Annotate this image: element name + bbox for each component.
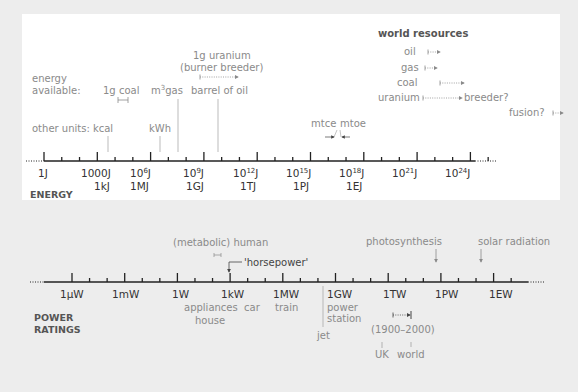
power-station-line1: power bbox=[327, 302, 359, 313]
energy-axis bbox=[26, 152, 496, 161]
power-label-tw: 1TW bbox=[383, 288, 407, 300]
energy-available-line1: energy bbox=[32, 73, 67, 84]
energy-label-1j: 1J bbox=[38, 167, 48, 179]
power-label-w: 1W bbox=[172, 288, 190, 300]
power-label-uw: 1µW bbox=[60, 288, 84, 300]
energy-label-10e9j: 109J bbox=[183, 167, 204, 179]
uranium-line1: 1g uranium bbox=[193, 50, 251, 61]
jet-label: jet bbox=[316, 330, 330, 341]
energy-label-1000j: 1000J bbox=[81, 167, 111, 179]
energy-label-10e24j: 1024J bbox=[445, 167, 470, 179]
gas-label: m3gas bbox=[151, 84, 183, 96]
energy-label-1kj: 1kJ bbox=[94, 180, 110, 192]
resource-oil-label: oil bbox=[404, 46, 416, 57]
world-label: world bbox=[397, 349, 425, 360]
world-resources-title: world resources bbox=[378, 28, 468, 39]
appliances-label: appliances bbox=[184, 302, 238, 313]
power-label-mw: 1MW bbox=[273, 288, 300, 300]
power-section-title-line2: RATINGS bbox=[34, 324, 81, 335]
horsepower-label: 'horsepower' bbox=[244, 257, 308, 268]
energy-label-1ej: 1EJ bbox=[346, 180, 362, 192]
energy-annotations: energy available: 1g coal m3gas barrel o… bbox=[32, 50, 366, 152]
uranium-line2: (burner breeder) bbox=[180, 62, 263, 73]
energy-label-1gj: 1GJ bbox=[186, 180, 204, 192]
energy-power-scale-diagram: 1J 1000J 1kJ 106J 1MJ 109J 1GJ 1012J 1TJ… bbox=[0, 0, 578, 392]
uk-label: UK bbox=[375, 349, 389, 360]
human-label: (metabolic) human bbox=[173, 237, 268, 248]
train-label: train bbox=[275, 302, 298, 313]
house-label: house bbox=[195, 315, 225, 326]
horsepower-arrow bbox=[229, 262, 242, 272]
solar-radiation-label: solar radiation bbox=[478, 236, 550, 247]
energy-label-1mj: 1MJ bbox=[130, 180, 149, 192]
power-label-pw: 1PW bbox=[435, 288, 459, 300]
other-units-label: other units: kcal bbox=[32, 123, 113, 134]
resource-gas-label: gas bbox=[401, 62, 419, 73]
energy-available-line2: available: bbox=[32, 85, 81, 96]
power-label-kw: 1kW bbox=[221, 288, 245, 300]
power-label-ew: 1EW bbox=[489, 288, 513, 300]
resource-uranium-label: uranium bbox=[378, 92, 420, 103]
power-section-title-line1: POWER bbox=[34, 312, 74, 323]
energy-label-10e12j: 1012J bbox=[233, 167, 258, 179]
power-label-gw: 1GW bbox=[327, 288, 353, 300]
photosynthesis-label: photosynthesis bbox=[366, 236, 442, 247]
power-axis bbox=[30, 273, 545, 282]
mtoe-label: mtoe bbox=[340, 118, 366, 129]
coal-label: 1g coal bbox=[103, 85, 139, 96]
energy-label-10e18j: 1018J bbox=[339, 167, 364, 179]
power-axis-labels: 1µW 1mW 1W 1kW 1MW 1GW 1TW 1PW 1EW bbox=[60, 288, 513, 300]
power-label-mw-milli: 1mW bbox=[112, 288, 140, 300]
oil-label: barrel of oil bbox=[191, 85, 248, 96]
mtce-label: mtce bbox=[311, 118, 336, 129]
world-resources: world resources oil gas coal uranium bre… bbox=[378, 28, 563, 118]
resource-coal-label: coal bbox=[397, 77, 418, 88]
energy-label-10e15j: 1015J bbox=[286, 167, 311, 179]
energy-label-10e6j: 106J bbox=[130, 167, 151, 179]
energy-section-title: ENERGY bbox=[30, 189, 73, 200]
energy-label-10e21j: 1021J bbox=[392, 167, 417, 179]
breeder-label: breeder? bbox=[464, 92, 508, 103]
energy-label-1pj: 1PJ bbox=[293, 180, 309, 192]
kwh-label: kWh bbox=[149, 123, 171, 134]
energy-axis-labels: 1J 1000J 1kJ 106J 1MJ 109J 1GJ 1012J 1TJ… bbox=[38, 167, 470, 192]
period-label: (1900–2000) bbox=[371, 324, 435, 335]
power-station-line2: station bbox=[327, 313, 361, 324]
energy-label-1tj: 1TJ bbox=[240, 180, 256, 192]
fusion-label: fusion? bbox=[509, 107, 545, 118]
car-label: car bbox=[244, 302, 261, 313]
